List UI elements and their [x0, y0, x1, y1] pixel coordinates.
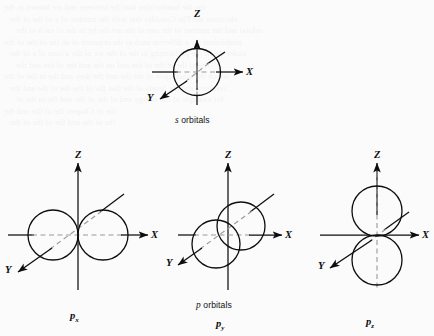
px-orbital-diagram	[8, 163, 148, 290]
pz-axis-label-x: X	[422, 230, 429, 241]
pz-axis-label-z: Z	[374, 150, 380, 161]
px-label-subscript: x	[75, 316, 79, 324]
pz-axis-y	[330, 240, 372, 268]
px-axis-y-far	[100, 194, 124, 212]
pz-label-subscript: z	[371, 322, 374, 330]
py-orbital-diagram	[178, 163, 282, 290]
s-orbitals-caption: s orbitals	[175, 115, 210, 125]
p-orbitals-caption-plain: orbitals	[201, 300, 232, 310]
s-axis-y	[160, 81, 187, 99]
py-axis-y-hidden	[200, 211, 252, 249]
pz-axis-label-y: Y	[318, 261, 324, 272]
py-axis-y-far	[250, 194, 274, 212]
py-axis-label-y: Y	[166, 258, 172, 269]
py-orbital-label: py	[216, 318, 224, 332]
pz-orbital-label: pz	[366, 316, 374, 330]
s-axis-label-x: X	[246, 67, 253, 78]
px-axis-label-y: Y	[5, 265, 11, 276]
py-axis-label-z: Z	[225, 150, 231, 161]
py-axis-label-x: X	[285, 230, 292, 241]
s-orbital-diagram	[152, 40, 243, 105]
px-axis-label-z: Z	[75, 150, 81, 161]
py-label-subscript: y	[221, 324, 224, 332]
py-lobe-far	[217, 202, 265, 250]
p-orbitals-caption: p orbitals	[196, 300, 232, 310]
px-orbital-label: px	[70, 310, 79, 324]
s-axis-label-z: Z	[194, 9, 200, 20]
px-axis-label-x: X	[151, 230, 158, 241]
s-axis-label-y: Y	[147, 93, 153, 104]
py-lobe-near	[192, 220, 240, 268]
orbital-figure	[0, 0, 434, 336]
s-orbitals-caption-plain: orbitals	[179, 115, 210, 125]
pz-orbital-diagram	[320, 163, 419, 288]
py-axis-y	[178, 248, 202, 265]
